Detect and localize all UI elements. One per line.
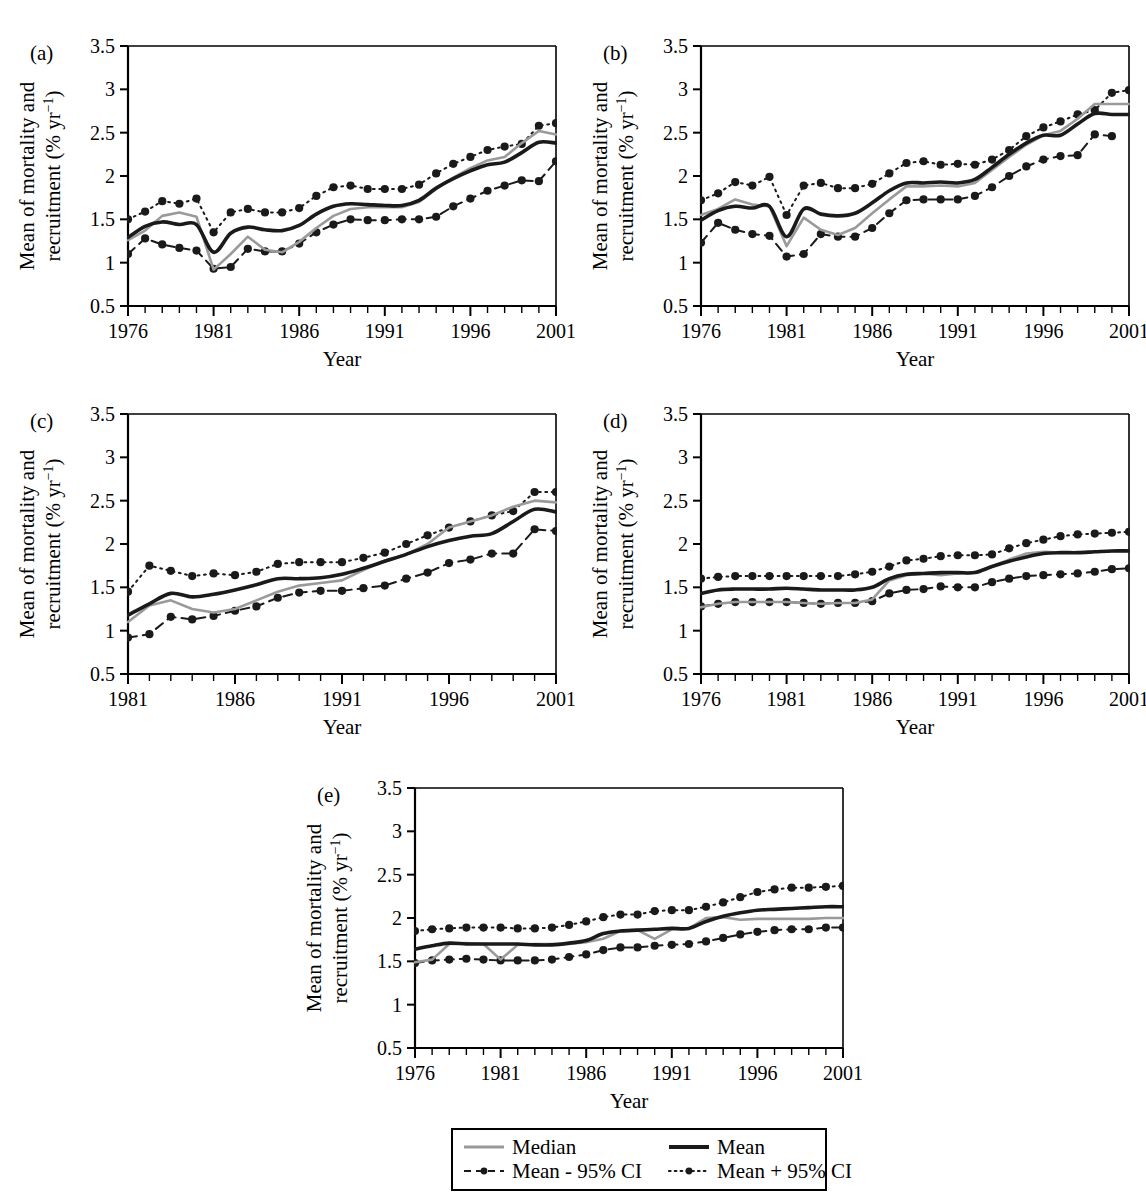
series-marker: [210, 569, 218, 577]
y-axis-title-line2: recruitment (% yr−1): [328, 832, 353, 1003]
series-marker: [731, 226, 739, 234]
x-axis-tick-label: 1996: [737, 1062, 777, 1084]
series-marker: [295, 204, 303, 212]
series-marker: [501, 142, 509, 150]
y-axis-tick-label: 2.5: [377, 864, 402, 886]
series-marker: [402, 575, 410, 583]
y-axis-tick-label: 2: [105, 165, 115, 187]
series-marker: [971, 161, 979, 169]
series-marker: [582, 950, 590, 958]
series-marker: [582, 917, 590, 925]
series-marker: [531, 525, 539, 533]
panel-c: (c)Mean of mortality andrecruitment (% y…: [0, 378, 573, 733]
series-marker: [805, 925, 813, 933]
series-marker: [227, 263, 235, 271]
y-axis-title-close: ): [614, 90, 638, 97]
series-marker: [714, 189, 722, 197]
series-marker: [1039, 571, 1047, 579]
series-marker: [988, 155, 996, 163]
series-marker: [338, 587, 346, 595]
series-marker: [552, 527, 560, 535]
y-axis-tick-label: 3: [678, 446, 688, 468]
y-axis-title-main: recruitment (% yr: [614, 112, 638, 261]
y-axis-tick-label: 3.5: [663, 403, 688, 425]
series-marker: [748, 572, 756, 580]
series-marker: [329, 220, 337, 228]
series-marker: [783, 572, 791, 580]
series-marker: [651, 907, 659, 915]
data-layer: [411, 882, 847, 967]
y-axis-tick-label: 0.5: [377, 1037, 402, 1059]
series-marker: [1108, 529, 1116, 537]
panel-label: (b): [603, 41, 628, 65]
series-marker: [252, 602, 260, 610]
data-layer: [697, 86, 1133, 261]
series-marker: [346, 215, 354, 223]
series-marker: [295, 558, 303, 566]
series-marker: [765, 572, 773, 580]
x-axis-tick-label: 1981: [767, 320, 807, 342]
y-axis-title-line1: Mean of mortality and: [588, 81, 612, 270]
series-marker: [919, 157, 927, 165]
series-marker: [988, 183, 996, 191]
series-marker: [466, 556, 474, 564]
series-marker: [616, 943, 624, 951]
series-marker: [1039, 123, 1047, 131]
series-marker: [565, 953, 573, 961]
series-marker: [488, 549, 496, 557]
series-marker: [552, 157, 560, 165]
legend-label-mean-minus-ci: Mean - 95% CI: [512, 1160, 642, 1182]
y-axis-tick-label: 3.5: [90, 403, 115, 425]
panel-label: (c): [30, 409, 53, 433]
x-axis-tick-label: 1991: [938, 320, 978, 342]
series-marker: [770, 885, 778, 893]
y-axis-title-line1: Mean of mortality and: [15, 81, 39, 270]
series-marker: [736, 930, 744, 938]
y-axis-tick-label: 3: [392, 820, 402, 842]
x-axis-tick-label: 1981: [108, 688, 148, 710]
series-marker: [479, 923, 487, 931]
x-axis-title: Year: [323, 347, 362, 371]
y-axis-tick-label: 1.5: [663, 208, 688, 230]
x-axis-tick-label: 1986: [279, 320, 319, 342]
y-axis-title-main: recruitment (% yr: [41, 480, 65, 629]
series-marker: [817, 179, 825, 187]
series-marker: [565, 921, 573, 929]
y-axis-title-main: recruitment (% yr: [614, 480, 638, 629]
series-marker: [124, 588, 132, 596]
series-marker: [466, 153, 474, 161]
series-marker: [1005, 575, 1013, 583]
series-marker: [1022, 132, 1030, 140]
series-marker: [124, 634, 132, 642]
series-marker: [445, 956, 453, 964]
y-axis-tick-label: 1.5: [90, 208, 115, 230]
series-line-mean: [701, 113, 1129, 237]
y-axis-tick-label: 2.5: [90, 490, 115, 512]
y-axis-title: Mean of mortality andrecruitment (% yr−1…: [588, 81, 638, 270]
series-marker: [1056, 117, 1064, 125]
series-marker: [535, 177, 543, 185]
series-marker: [988, 550, 996, 558]
y-axis-title-close: ): [41, 458, 65, 465]
y-axis-tick-label: 0.5: [90, 295, 115, 317]
series-marker: [697, 575, 705, 583]
series-marker: [954, 160, 962, 168]
series-marker: [937, 161, 945, 169]
series-marker: [800, 250, 808, 258]
y-axis-title-line2: recruitment (% yr−1): [41, 90, 66, 261]
series-marker: [364, 216, 372, 224]
series-marker: [783, 211, 791, 219]
series-marker: [548, 956, 556, 964]
series-marker: [531, 956, 539, 964]
x-axis-tick-label: 1996: [429, 688, 469, 710]
series-marker: [274, 560, 282, 568]
series-marker: [839, 923, 847, 931]
series-marker: [1039, 155, 1047, 163]
series-marker: [800, 181, 808, 189]
series-marker: [736, 893, 744, 901]
series-marker: [599, 913, 607, 921]
y-axis-tick-label: 1: [105, 620, 115, 642]
panel-d: (d)Mean of mortality andrecruitment (% y…: [573, 378, 1146, 733]
legend-swatch-mean-icon: [668, 1140, 710, 1154]
series-marker: [261, 208, 269, 216]
